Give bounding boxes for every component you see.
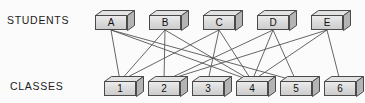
- class-node-label: 4: [236, 81, 268, 96]
- class-node-label: 3: [192, 81, 224, 96]
- edges-group: [111, 30, 340, 81]
- class-node-label: 1: [104, 81, 136, 96]
- edge-e-6: [327, 30, 340, 81]
- student-node-c[interactable]: C: [203, 10, 237, 27]
- class-node-label: 5: [280, 81, 312, 96]
- edge-e-2: [164, 30, 327, 81]
- row-label-students: STUDENTS: [7, 14, 69, 26]
- class-node-3[interactable]: 3: [192, 76, 226, 93]
- edge-b-4: [165, 30, 252, 81]
- class-node-2[interactable]: 2: [148, 76, 182, 93]
- student-node-e[interactable]: E: [311, 10, 345, 27]
- class-node-label: 2: [148, 81, 180, 96]
- student-node-label: E: [311, 15, 343, 30]
- student-node-label: D: [257, 15, 289, 30]
- student-node-b[interactable]: B: [149, 10, 183, 27]
- edge-c-4: [219, 30, 252, 81]
- student-node-label: C: [203, 15, 235, 30]
- edge-a-1: [111, 30, 120, 81]
- student-node-label: A: [95, 15, 127, 30]
- class-node-label: 6: [324, 81, 356, 96]
- edge-a-4: [111, 30, 252, 81]
- edge-c-3: [208, 30, 219, 81]
- row-label-classes: CLASSES: [10, 80, 63, 92]
- class-node-5[interactable]: 5: [280, 76, 314, 93]
- class-node-1[interactable]: 1: [104, 76, 138, 93]
- class-node-4[interactable]: 4: [236, 76, 270, 93]
- edge-d-5: [273, 30, 296, 81]
- student-node-label: B: [149, 15, 181, 30]
- edge-b-2: [164, 30, 165, 81]
- student-node-d[interactable]: D: [257, 10, 291, 27]
- student-node-a[interactable]: A: [95, 10, 129, 27]
- edge-e-4: [252, 30, 327, 81]
- class-node-6[interactable]: 6: [324, 76, 358, 93]
- edge-b-1: [120, 30, 165, 81]
